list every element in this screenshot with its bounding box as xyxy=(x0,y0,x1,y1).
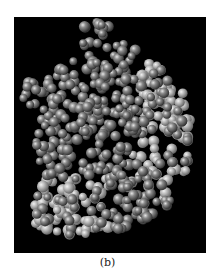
molecule-image-panel xyxy=(14,17,206,253)
molecule-spheres xyxy=(14,17,206,253)
figure-caption: (b) xyxy=(0,256,215,269)
